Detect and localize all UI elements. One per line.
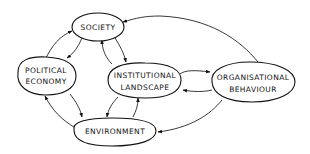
node-organisational-behaviour-label-1: ORGANISATIONAL <box>217 73 290 82</box>
node-environment-label: ENVIRONMENT <box>85 127 145 136</box>
edge-organisational-behaviour-to-environment <box>158 100 222 132</box>
node-institutional-landscape-label-1: INSTITUTIONAL <box>114 71 177 80</box>
edge-political-economy-to-environment <box>70 94 82 117</box>
edge-political-economy-to-society <box>45 31 72 60</box>
node-political-economy-label-2: ECONOMY <box>25 77 66 86</box>
edge-institutional-landscape-to-environment <box>107 97 118 117</box>
edge-society-to-institutional-landscape <box>115 38 126 62</box>
node-society-label: SOCIETY <box>81 23 116 32</box>
system-diagram: SOCIETY POLITICAL ECONOMY INSTITUTIONAL … <box>0 0 310 154</box>
node-institutional-landscape: INSTITUTIONAL LANDSCAPE <box>108 63 181 98</box>
edge-institutional-landscape-to-organisational-behaviour <box>180 71 210 74</box>
node-environment: ENVIRONMENT <box>74 118 156 146</box>
edge-environment-to-political-economy <box>45 96 74 127</box>
node-political-economy-label-1: POLITICAL <box>25 66 67 75</box>
edge-institutional-landscape-to-society <box>102 40 112 64</box>
node-institutional-landscape-label-2: LANDSCAPE <box>121 83 170 92</box>
edge-organisational-behaviour-to-institutional-landscape <box>183 90 212 92</box>
node-political-economy: POLITICAL ECONOMY <box>18 57 76 95</box>
node-organisational-behaviour-label-2: BEHAVIOUR <box>229 85 277 94</box>
edge-organisational-behaviour-to-society <box>123 16 258 62</box>
edge-environment-to-institutional-landscape <box>133 98 138 117</box>
node-society: SOCIETY <box>72 13 124 41</box>
node-organisational-behaviour: ORGANISATIONAL BEHAVIOUR <box>212 62 295 102</box>
edge-society-to-political-economy <box>67 38 82 58</box>
